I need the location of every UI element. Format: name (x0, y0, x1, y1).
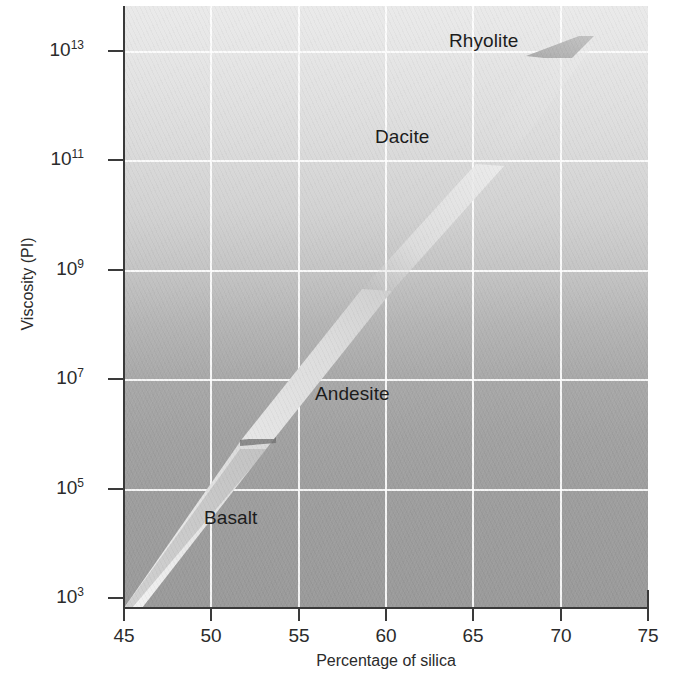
annotation-dacite: Dacite (375, 126, 429, 148)
chart-figure: 1013 1011 109 107 105 103 45 50 55 60 65… (0, 0, 675, 681)
x-tick-60 (385, 608, 387, 621)
y-tick-1e11 (108, 159, 124, 161)
y-tick-label-1e3: 103 (56, 587, 84, 606)
x-tick-45 (123, 608, 125, 621)
x-tick-75 (647, 608, 649, 621)
annotation-rhyolite: Rhyolite (449, 30, 518, 52)
viscosity-band (124, 6, 648, 608)
y-tick-label-1e9: 109 (56, 259, 84, 278)
annotation-basalt: Basalt (204, 507, 257, 529)
y-tick-label-1e11: 1011 (50, 149, 84, 168)
y-tick-1e5 (108, 488, 124, 490)
x-tick-label-50: 50 (181, 626, 241, 645)
x-tick-label-65: 65 (443, 626, 503, 645)
axis-right-stub (647, 590, 649, 609)
y-axis-title: Viscosity (PI) (19, 194, 37, 374)
x-tick-label-70: 70 (531, 626, 591, 645)
x-tick-70 (560, 608, 562, 621)
y-tick-label-1e7: 107 (56, 368, 84, 387)
y-tick-1e3 (108, 597, 124, 599)
band-segment-dacite (362, 164, 504, 291)
x-tick-label-55: 55 (269, 626, 329, 645)
x-tick-50 (210, 608, 212, 621)
y-tick-label-1e13: 1013 (50, 40, 85, 59)
annotation-andesite: Andesite (315, 383, 390, 405)
x-tick-label-45: 45 (94, 626, 154, 645)
x-tick-65 (472, 608, 474, 621)
y-axis-line (123, 6, 125, 608)
x-tick-label-75: 75 (618, 626, 675, 645)
y-tick-label-1e5: 105 (56, 478, 84, 497)
band-segment-rhyolite (476, 42, 594, 166)
x-axis-title: Percentage of silica (124, 652, 648, 670)
x-tick-label-60: 60 (356, 626, 416, 645)
x-tick-55 (298, 608, 300, 621)
y-tick-1e13 (108, 50, 124, 52)
plot-area (124, 6, 648, 608)
y-tick-1e9 (108, 269, 124, 271)
y-tick-1e7 (108, 378, 124, 380)
band-segment-andesite (242, 289, 392, 439)
